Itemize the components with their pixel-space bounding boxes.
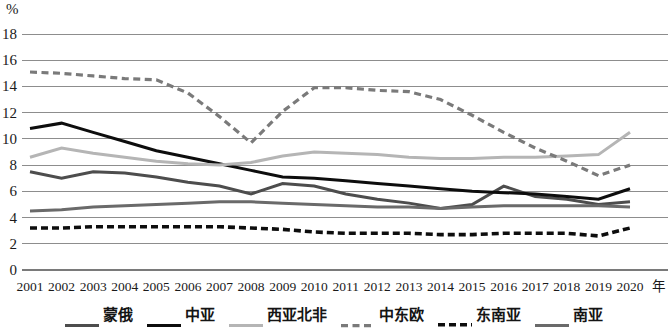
x-axis-title: 年 — [652, 279, 665, 294]
legend-label: 蒙俄 — [103, 306, 133, 323]
x-tick-label: 2004 — [111, 279, 138, 294]
x-tick-label: 2009 — [269, 279, 296, 294]
y-tick-label: 0 — [10, 262, 18, 278]
x-tick-label: 2016 — [490, 279, 517, 294]
x-tick-label: 2020 — [617, 279, 644, 294]
legend-label: 南亚 — [573, 306, 603, 323]
legend-label: 中东欧 — [379, 306, 424, 323]
y-tick-label: 8 — [10, 157, 18, 173]
y-tick-label: 16 — [2, 52, 18, 68]
x-tick-label: 2001 — [17, 279, 44, 294]
legend-label: 西亚北非 — [267, 306, 327, 323]
x-tick-label: 2014 — [427, 279, 454, 294]
x-axis-tick-labels: 2001200220032004200520062007200820092010… — [17, 279, 665, 294]
x-tick-label: 2010 — [301, 279, 328, 294]
series-line-0 — [30, 172, 630, 209]
x-tick-label: 2005 — [143, 279, 170, 294]
legend-item-1[interactable]: 中亚 — [147, 306, 215, 323]
series-line-3 — [30, 72, 630, 176]
legend-item-3[interactable]: 中东欧 — [341, 306, 424, 323]
x-tick-label: 2018 — [553, 279, 580, 294]
legend-item-0[interactable]: 蒙俄 — [65, 306, 133, 323]
series-lines — [30, 72, 630, 236]
legend-item-5[interactable]: 南亚 — [535, 306, 603, 323]
series-line-4 — [30, 227, 630, 236]
y-tick-label: 18 — [2, 26, 17, 42]
x-tick-label: 2011 — [333, 279, 360, 294]
x-tick-label: 2002 — [48, 279, 75, 294]
x-tick-label: 2013 — [395, 279, 422, 294]
x-tick-label: 2007 — [206, 279, 233, 294]
chart-plot-area: 024681012141618 200120022003200420052006… — [0, 0, 668, 300]
x-tick-label: 2006 — [174, 279, 201, 294]
y-tick-label: 10 — [2, 131, 17, 147]
legend-label: 东南亚 — [476, 306, 521, 323]
y-tick-label: 14 — [2, 78, 18, 94]
x-tick-label: 2015 — [459, 279, 486, 294]
y-axis-tick-labels: 024681012141618 — [2, 26, 18, 278]
legend-label: 中亚 — [185, 306, 215, 323]
x-tick-label: 2008 — [238, 279, 265, 294]
legend-item-4[interactable]: 东南亚 — [438, 306, 521, 323]
y-tick-label: 2 — [10, 236, 18, 252]
x-tick-label: 2012 — [364, 279, 391, 294]
series-line-5 — [30, 202, 630, 211]
chart-legend: 蒙俄中亚西亚北非中东欧东南亚南亚 — [0, 300, 668, 328]
legend-item-2[interactable]: 西亚北非 — [229, 306, 327, 323]
x-tick-label: 2017 — [522, 279, 549, 294]
y-tick-label: 12 — [2, 105, 17, 121]
x-tick-label: 2003 — [80, 279, 107, 294]
y-tick-label: 4 — [10, 210, 18, 226]
x-tick-label: 2019 — [585, 279, 612, 294]
line-chart: % 024681012141618 2001200220032004200520… — [0, 0, 668, 328]
y-tick-label: 6 — [10, 183, 18, 199]
series-line-1 — [30, 123, 630, 199]
